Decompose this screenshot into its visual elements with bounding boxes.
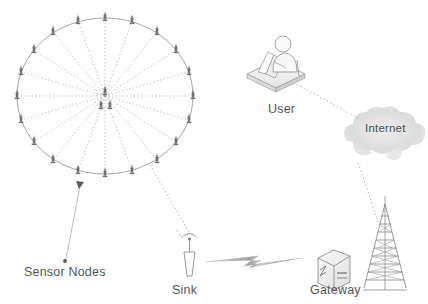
- cluster-spokes: [17, 18, 193, 174]
- sensor-nodes-label: Sensor Nodes: [24, 265, 106, 279]
- diagram-vector-layer: [0, 0, 428, 304]
- diagram-canvas: Sensor Nodes Sink Gateway User Internet: [0, 0, 428, 304]
- tower-to-internet-link: [358, 162, 378, 222]
- sensor-nodes-leader: [63, 181, 84, 263]
- gateway-label: Gateway: [310, 283, 361, 297]
- internet-to-user-link: [296, 84, 358, 118]
- radio-tower-icon: [363, 196, 407, 290]
- user-at-desk-icon: [247, 36, 305, 92]
- sink-antenna-icon: [176, 229, 198, 276]
- internet-label: Internet: [365, 122, 406, 134]
- cluster-to-sink-link: [150, 165, 189, 232]
- wireless-link-bolt-icon: [206, 256, 302, 268]
- sink-label: Sink: [172, 283, 197, 297]
- user-label: User: [268, 102, 295, 116]
